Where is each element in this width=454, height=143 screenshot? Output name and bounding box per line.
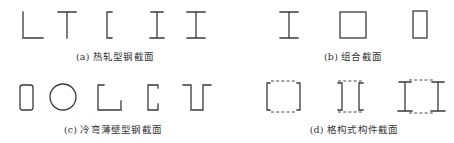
tee-section <box>58 12 76 38</box>
caption-panel-b: (b) 组合截面 <box>324 49 382 63</box>
channel-section <box>107 12 112 38</box>
rectangular-box-section <box>413 11 427 38</box>
caption-panel-c: (c) 冷弯薄壁型钢截面 <box>64 122 162 136</box>
angle-section <box>23 12 43 38</box>
hat-section <box>183 85 211 110</box>
cold-formed-angle <box>98 85 121 110</box>
i-beam-section <box>150 12 164 38</box>
laced-double-i-section <box>398 80 445 113</box>
rounded-rectangular-tube <box>20 85 33 110</box>
h-beam-section <box>187 12 205 38</box>
circular-tube <box>50 84 76 110</box>
lipped-channel <box>148 85 158 110</box>
laced-double-channel-outward <box>267 81 300 112</box>
caption-panel-d: (d) 格构式构件截面 <box>310 122 399 136</box>
welded-i-section <box>280 12 298 38</box>
panel-b-shapes <box>280 11 427 38</box>
caption-panel-a: (a) 热轧型钢截面 <box>76 49 154 63</box>
panel-c-shapes <box>20 84 211 110</box>
panel-d-shapes <box>267 80 445 113</box>
square-box-section <box>340 12 366 38</box>
panel-a-shapes <box>23 12 205 38</box>
laced-double-channel-inward <box>338 81 363 112</box>
